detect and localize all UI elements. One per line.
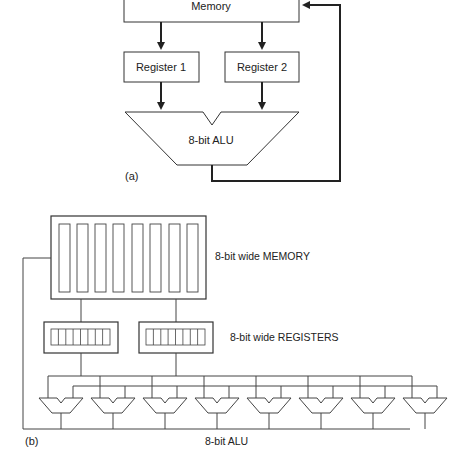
memory-label: Memory: [191, 0, 231, 12]
alu-6: [299, 376, 343, 429]
caption-a: (a): [125, 170, 138, 182]
alu-4: [195, 376, 239, 429]
figure-a: Memory Register 1 Register 2 8-bit ALU (…: [124, 0, 340, 182]
diagram-canvas: Memory Register 1 Register 2 8-bit ALU (…: [0, 0, 462, 459]
alu-5: [247, 376, 291, 429]
alu-label: 8-bit ALU: [188, 134, 233, 146]
alu-label-b: 8-bit ALU: [205, 435, 248, 447]
memory-label-b: 8-bit wide MEMORY: [215, 250, 310, 262]
alu-8: [403, 376, 447, 429]
alu-2: [91, 376, 135, 429]
alu-7: [351, 376, 395, 429]
alu-3: [143, 376, 187, 429]
register1-cells: [51, 329, 110, 345]
caption-b: (b): [25, 435, 38, 447]
registers-label-b: 8-bit wide REGISTERS: [230, 331, 339, 343]
alu-1: [39, 376, 83, 429]
wide-memory-box: [51, 216, 206, 299]
alu-array: [39, 376, 447, 429]
register2-label: Register 2: [237, 61, 287, 73]
figure-b: 8-bit wide MEMORY 8-bit wide REGISTERS: [23, 216, 447, 447]
register1-label: Register 1: [136, 61, 186, 73]
register2-cells: [146, 329, 205, 345]
